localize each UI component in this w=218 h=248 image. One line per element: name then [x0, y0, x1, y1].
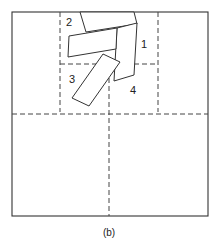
region-label-2: 2	[66, 16, 72, 28]
rect-vertical	[114, 23, 137, 81]
figure-caption: (b)	[103, 227, 115, 238]
region-label-4: 4	[130, 84, 136, 96]
rect-horizontal	[68, 28, 117, 57]
rect-diagonal	[72, 54, 120, 106]
objects	[68, 12, 137, 106]
region-label-1: 1	[141, 38, 147, 50]
region-label-3: 3	[69, 73, 75, 85]
quadtree-diagram: 2 1 3 4 (b)	[0, 0, 218, 248]
